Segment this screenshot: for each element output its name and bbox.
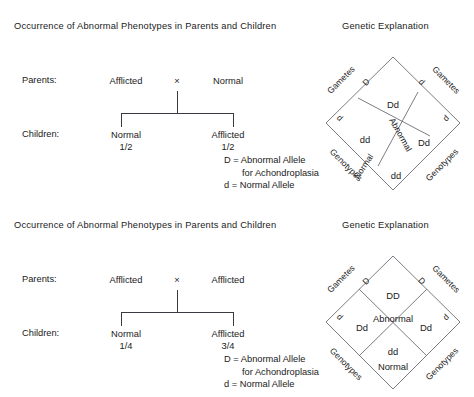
genetics-panel-cross-one: Occurrence of Abnormal Phenotypes in Par…: [0, 0, 474, 198]
legend-line-condition: for Achondroplasia: [224, 167, 319, 180]
child-left-phenotype: Normal: [111, 130, 141, 140]
allele-top-left: D: [360, 275, 371, 286]
punnett-cell-top: Dd: [387, 99, 399, 110]
pedigree-diagram: Parents: Children: Afflicted × Afflicted…: [0, 257, 320, 367]
punnett-cell-top: DD: [386, 290, 400, 301]
panel-title-right: Genetic Explanation: [342, 21, 429, 31]
pedigree-parents-label: Parents:: [22, 75, 57, 85]
punnett-cell-right: Dd: [420, 322, 432, 333]
allele-top-left: D: [360, 76, 371, 87]
parent-right-phenotype: Afflicted: [187, 274, 269, 286]
child-left-outcome: Normal 1/4: [85, 328, 167, 352]
child-right-phenotype: Afflicted: [212, 329, 245, 339]
child-right-phenotype: Afflicted: [212, 130, 245, 140]
genetics-panel-cross-two: Occurrence of Abnormal Phenotypes in Par…: [0, 199, 474, 397]
parent-right-phenotype: Normal: [187, 75, 269, 87]
allele-bottom-left: d: [335, 113, 346, 124]
punnett-cell-bottom: dd: [388, 346, 398, 357]
allele-legend: D = Abnormal Allele for Achondroplasia d…: [224, 154, 319, 192]
punnett-square-diamond: DD Dd Dd dd Abnormal Normal D d D d Game…: [320, 249, 470, 397]
legend-line-recessive: d = Normal Allele: [224, 180, 295, 190]
genotypes-right-label: Genotypes: [424, 147, 460, 183]
child-left-outcome: Normal 1/2: [85, 129, 167, 153]
allele-top-right: D: [416, 275, 427, 286]
child-right-fraction: 3/4: [187, 340, 269, 352]
child-left-fraction: 1/4: [85, 340, 167, 352]
punnett-cell-left: Dd: [356, 322, 368, 333]
pedigree-children-label: Children:: [22, 328, 59, 338]
pedigree-connector-vertical: [177, 290, 178, 312]
phenotype-abnormal-label: Abnormal: [373, 313, 413, 324]
gametes-right-label: Gametes: [430, 64, 462, 96]
phenotype-normal-label: Normal: [378, 361, 408, 372]
genotypes-left-label: Genotypes: [328, 346, 364, 382]
parent-left-phenotype: Afflicted: [85, 75, 167, 87]
pedigree-children-label: Children:: [22, 129, 59, 139]
punnett-cell-bottom: dd: [391, 170, 401, 181]
pedigree-parents-label: Parents:: [22, 274, 57, 284]
legend-line-dominant: D = Abnormal Allele: [224, 354, 305, 364]
punnett-cell-left: dd: [360, 134, 370, 145]
legend-line-dominant: D = Abnormal Allele: [224, 155, 305, 165]
pedigree-connector-drop-right: [233, 113, 234, 127]
pedigree-connector-drop-right: [233, 312, 234, 326]
parent-left-phenotype: Afflicted: [85, 274, 167, 286]
allele-bottom-left: d: [335, 312, 346, 323]
pedigree-diagram: Parents: Children: Afflicted × Normal No…: [0, 58, 320, 168]
punnett-cell-right: Dd: [418, 137, 430, 148]
gametes-right-label: Gametes: [430, 263, 462, 295]
punnett-square-diamond: Dd dd Dd dd Abnormal Normal D d d d Game…: [320, 50, 470, 198]
cross-symbol: ×: [167, 274, 187, 286]
pedigree-connector-drop-left: [121, 312, 122, 326]
allele-legend: D = Abnormal Allele for Achondroplasia d…: [224, 353, 319, 391]
panel-title-left: Occurrence of Abnormal Phenotypes in Par…: [14, 21, 276, 31]
legend-line-recessive: d = Normal Allele: [224, 379, 295, 389]
child-right-outcome: Afflicted 1/2: [187, 129, 269, 153]
cross-symbol: ×: [167, 75, 187, 87]
gametes-left-label: Gametes: [325, 263, 357, 295]
child-right-fraction: 1/2: [187, 141, 269, 153]
panel-title-right: Genetic Explanation: [342, 220, 429, 230]
pedigree-connector-horizontal: [121, 113, 234, 114]
panel-title-left: Occurrence of Abnormal Phenotypes in Par…: [14, 220, 276, 230]
legend-line-condition: for Achondroplasia: [224, 366, 319, 379]
phenotype-abnormal-label: Abnormal: [387, 116, 414, 153]
genotypes-right-label: Genotypes: [424, 346, 460, 382]
child-left-fraction: 1/2: [85, 141, 167, 153]
child-right-outcome: Afflicted 3/4: [187, 328, 269, 352]
gametes-left-label: Gametes: [325, 64, 357, 96]
pedigree-connector-horizontal: [121, 312, 234, 313]
pedigree-connector-drop-left: [121, 113, 122, 127]
allele-bottom-right: d: [441, 112, 452, 123]
pedigree-connector-vertical: [177, 91, 178, 113]
child-left-phenotype: Normal: [111, 329, 141, 339]
allele-bottom-right: d: [441, 311, 452, 322]
